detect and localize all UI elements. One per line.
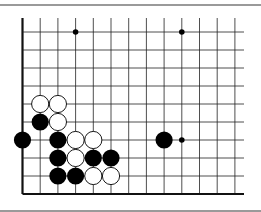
- black-stone: [85, 149, 102, 166]
- white-stone: [49, 95, 66, 112]
- black-stone: [32, 113, 49, 130]
- white-stone: [102, 167, 119, 184]
- star-point-icon: [73, 29, 79, 35]
- star-point-icon: [179, 137, 185, 143]
- black-stone: [156, 131, 173, 148]
- star-point-icon: [179, 29, 185, 35]
- bottom-divider: [0, 210, 261, 212]
- white-stone: [49, 113, 66, 130]
- white-stone: [32, 95, 49, 112]
- black-stone: [67, 167, 84, 184]
- white-stone: [67, 149, 84, 166]
- black-stone: [14, 131, 31, 148]
- white-stone: [85, 167, 102, 184]
- black-stone: [49, 149, 66, 166]
- black-stone: [102, 149, 119, 166]
- white-stone: [67, 131, 84, 148]
- white-stone: [85, 131, 102, 148]
- black-stone: [49, 167, 66, 184]
- go-board: [0, 0, 261, 212]
- black-stone: [49, 131, 66, 148]
